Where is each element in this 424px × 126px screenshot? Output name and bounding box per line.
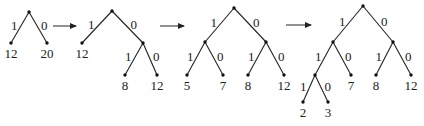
tree-node-dot <box>361 4 364 7</box>
tree-edge <box>234 8 266 42</box>
edge-bit-label: 0 <box>381 14 388 29</box>
edge-bit-label: 0 <box>345 49 352 64</box>
edge-bit-label: 1 <box>187 49 194 64</box>
tree-node-dot <box>349 73 352 76</box>
tree-node-dot <box>282 73 285 76</box>
tree-node-dot <box>141 41 144 44</box>
edge-bit-label: 1 <box>88 17 95 32</box>
leaf-weight-label: 8 <box>122 78 129 93</box>
leaf-weight-label: 8 <box>245 78 252 93</box>
tree-edge <box>333 6 363 42</box>
leaf-weight-label: 12 <box>151 78 164 93</box>
leaf-weight-label: 12 <box>5 46 18 61</box>
edge-bit-label: 1 <box>376 49 383 64</box>
huffman-diagram: 1012201010128121010105781210101010781223 <box>0 0 424 126</box>
tree-node-dot <box>409 73 412 76</box>
edge-bit-label: 0 <box>153 49 160 64</box>
leaf-weight-label: 8 <box>373 78 380 93</box>
tree-step4: 10101010781223 <box>300 4 418 120</box>
tree-node-dot <box>301 100 304 103</box>
edge-bit-label: 0 <box>253 15 260 30</box>
edge-bit-label: 0 <box>41 18 48 33</box>
tree-edge <box>82 11 112 43</box>
edge-bit-label: 1 <box>11 18 18 33</box>
tree-node-dot <box>264 40 267 43</box>
tree-node-dot <box>246 73 249 76</box>
edge-bit-label: 1 <box>315 49 322 64</box>
edge-bit-label: 1 <box>125 49 132 64</box>
edge-bit-label: 1 <box>211 15 218 30</box>
tree-node-dot <box>45 41 48 44</box>
edge-bit-label: 1 <box>248 49 255 64</box>
tree-node-dot <box>80 41 83 44</box>
tree-node-dot <box>391 40 394 43</box>
leaf-weight-label: 12 <box>76 46 89 61</box>
leaf-weight-label: 7 <box>348 78 355 93</box>
edge-bit-label: 1 <box>339 14 346 29</box>
leaf-weight-label: 2 <box>300 105 307 120</box>
leaf-weight-label: 5 <box>184 78 191 93</box>
tree-node-dot <box>27 10 30 13</box>
edge-bit-label: 0 <box>325 79 332 94</box>
tree-step1: 101220 <box>5 10 54 61</box>
tree-node-dot <box>155 73 158 76</box>
leaf-weight-label: 3 <box>325 105 332 120</box>
tree-edge <box>112 11 143 43</box>
trees: 1012201010128121010105781210101010781223 <box>5 4 418 120</box>
tree-node-dot <box>221 73 224 76</box>
tree-edge <box>205 8 234 42</box>
edge-bit-label: 0 <box>217 49 224 64</box>
tree-node-dot <box>123 73 126 76</box>
tree-step2: 101012812 <box>76 9 164 93</box>
tree-step3: 10101057812 <box>184 6 291 93</box>
tree-node-dot <box>374 73 377 76</box>
edge-bit-label: 0 <box>278 49 285 64</box>
tree-node-dot <box>313 73 316 76</box>
tree-node-dot <box>110 9 113 12</box>
leaf-weight-label: 12 <box>278 78 291 93</box>
tree-edge <box>363 6 393 42</box>
leaf-weight-label: 12 <box>405 78 418 93</box>
tree-node-dot <box>326 100 329 103</box>
tree-node-dot <box>331 40 334 43</box>
tree-node-dot <box>203 40 206 43</box>
edge-bit-label: 0 <box>405 49 412 64</box>
edge-bit-label: 0 <box>131 17 138 32</box>
tree-node-dot <box>9 41 12 44</box>
tree-node-dot <box>232 6 235 9</box>
tree-node-dot <box>185 73 188 76</box>
edge-bit-label: 1 <box>300 79 307 94</box>
leaf-weight-label: 20 <box>41 46 54 61</box>
leaf-weight-label: 7 <box>220 78 227 93</box>
